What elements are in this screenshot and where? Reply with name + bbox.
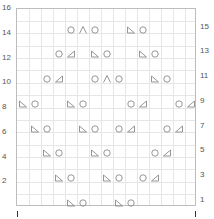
- ssk-icon: [89, 46, 101, 58]
- k2tog-icon: [125, 121, 137, 133]
- ssk-icon: [101, 170, 113, 182]
- yarn-over-icon: [53, 145, 65, 157]
- k2tog-icon: [185, 96, 197, 108]
- row-label-left: 4: [2, 153, 14, 161]
- row-label-left: 10: [2, 78, 14, 86]
- row-label-left: 6: [2, 128, 14, 136]
- yarn-over-icon: [77, 195, 89, 207]
- double-decrease-icon: [77, 22, 89, 34]
- grid-row-line: [17, 95, 195, 96]
- ssk-icon: [29, 121, 41, 133]
- row-label-left: 16: [2, 4, 14, 12]
- k2tog-icon: [65, 46, 77, 58]
- row-label-right: 5: [200, 146, 214, 154]
- k2tog-icon: [137, 96, 149, 108]
- yarn-over-icon: [149, 145, 161, 157]
- k2tog-icon: [53, 71, 65, 83]
- grid-row-line: [17, 194, 195, 195]
- grid-row-line: [17, 21, 195, 22]
- ssk-icon: [65, 96, 77, 108]
- repeat-start-marker: [17, 211, 18, 217]
- ssk-icon: [77, 121, 89, 133]
- row-label-left: 2: [2, 177, 14, 185]
- row-label-right: 13: [200, 47, 214, 55]
- yarn-over-icon: [65, 22, 77, 34]
- yarn-over-icon: [125, 195, 137, 207]
- ssk-icon: [17, 96, 29, 108]
- yarn-over-icon: [113, 71, 125, 83]
- ssk-icon: [113, 195, 125, 207]
- yarn-over-icon: [161, 121, 173, 133]
- yarn-over-icon: [113, 121, 125, 133]
- row-label-left: 14: [2, 29, 14, 37]
- row-label-left: 8: [2, 103, 14, 111]
- ssk-icon: [149, 71, 161, 83]
- ssk-icon: [125, 22, 137, 34]
- row-label-right: 7: [200, 122, 214, 130]
- k2tog-icon: [161, 145, 173, 157]
- ssk-icon: [53, 170, 65, 182]
- k2tog-icon: [173, 121, 185, 133]
- row-label-right: 15: [200, 23, 214, 31]
- ssk-icon: [41, 145, 53, 157]
- knitting-chart-grid: [16, 8, 196, 206]
- yarn-over-icon: [41, 71, 53, 83]
- yarn-over-icon: [89, 121, 101, 133]
- ssk-icon: [137, 46, 149, 58]
- yarn-over-icon: [29, 96, 41, 108]
- yarn-over-icon: [65, 170, 77, 182]
- row-label-right: 11: [200, 72, 214, 80]
- yarn-over-icon: [161, 71, 173, 83]
- row-label-left: 12: [2, 54, 14, 62]
- yarn-over-icon: [53, 46, 65, 58]
- yarn-over-icon: [149, 46, 161, 58]
- yarn-over-icon: [137, 22, 149, 34]
- row-label-right: 1: [200, 196, 214, 204]
- yarn-over-icon: [101, 46, 113, 58]
- yarn-over-icon: [89, 71, 101, 83]
- row-label-right: 9: [200, 97, 214, 105]
- k2tog-icon: [149, 170, 161, 182]
- double-decrease-icon: [101, 71, 113, 83]
- yarn-over-icon: [125, 96, 137, 108]
- row-label-right: 3: [200, 171, 214, 179]
- yarn-over-icon: [137, 170, 149, 182]
- ssk-icon: [89, 145, 101, 157]
- yarn-over-icon: [89, 22, 101, 34]
- grid-row-line: [17, 33, 195, 34]
- yarn-over-icon: [41, 121, 53, 133]
- yarn-over-icon: [101, 145, 113, 157]
- grid-row-line: [17, 108, 195, 109]
- yarn-over-icon: [77, 96, 89, 108]
- repeat-end-marker: [195, 211, 196, 217]
- ssk-icon: [65, 195, 77, 207]
- yarn-over-icon: [113, 170, 125, 182]
- yarn-over-icon: [173, 96, 185, 108]
